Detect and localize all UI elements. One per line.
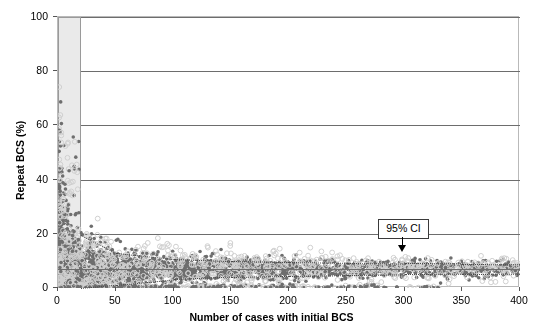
x-tick-label-350: 350 (441, 295, 481, 306)
plot-area (57, 16, 519, 287)
y-tick-label-80: 80 (18, 65, 48, 76)
y-tick-mark-40 (53, 179, 57, 180)
x-tick-label-150: 150 (210, 295, 250, 306)
x-tick-mark-150 (230, 287, 231, 291)
x-tick-mark-100 (173, 287, 174, 291)
y-tick-label-0: 0 (18, 282, 48, 293)
x-tick-mark-300 (404, 287, 405, 291)
x-tick-label-250: 250 (326, 295, 366, 306)
y-axis-title: Repeat BCS (%) (14, 121, 26, 200)
x-axis-title: Number of cases with initial BCS (0, 311, 543, 323)
funnel-plot-figure: 020406080100 050100150200250300350400 Nu… (0, 0, 543, 331)
scatter-points (58, 17, 520, 288)
x-tick-mark-350 (461, 287, 462, 291)
x-tick-label-200: 200 (268, 295, 308, 306)
ci-annotation-label: 95% CI (378, 219, 429, 239)
ci-upper-line (462, 264, 520, 265)
mean-line (58, 269, 520, 270)
y-tick-mark-100 (53, 16, 57, 17)
x-tick-label-300: 300 (384, 295, 424, 306)
x-tick-mark-250 (346, 287, 347, 291)
x-tick-mark-0 (57, 287, 58, 291)
x-tick-mark-50 (115, 287, 116, 291)
x-tick-label-100: 100 (153, 295, 193, 306)
ci-annotation-arrow-head (398, 245, 406, 252)
y-tick-mark-20 (53, 233, 57, 234)
x-tick-label-50: 50 (95, 295, 135, 306)
x-tick-label-400: 400 (499, 295, 539, 306)
x-tick-label-0: 0 (37, 295, 77, 306)
y-tick-mark-80 (53, 70, 57, 71)
y-tick-label-100: 100 (18, 11, 48, 22)
y-tick-mark-60 (53, 124, 57, 125)
x-tick-mark-200 (288, 287, 289, 291)
y-tick-label-20: 20 (18, 228, 48, 239)
x-tick-mark-400 (519, 287, 520, 291)
